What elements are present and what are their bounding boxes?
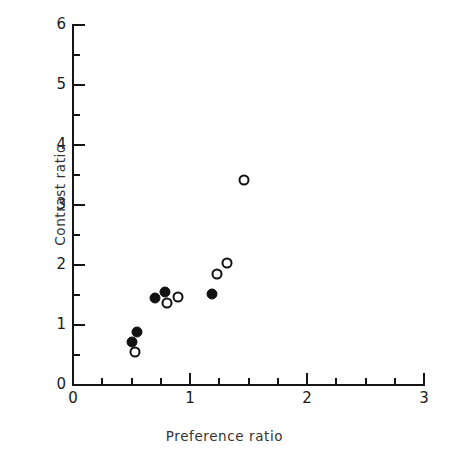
x-tick-label: 3 xyxy=(419,389,429,407)
x-tick-label: 1 xyxy=(185,389,195,407)
data-point-open xyxy=(161,297,172,308)
data-point-filled xyxy=(132,327,143,338)
y-axis-title: Contrast ratio xyxy=(52,144,68,246)
data-point-open xyxy=(211,269,222,280)
data-point-open xyxy=(222,257,233,268)
y-tick-label: 1 xyxy=(26,315,66,333)
scatter-chart-figure: 0123456 0123 Preference ratio Contrast r… xyxy=(0,0,449,458)
y-tick-label: 5 xyxy=(26,75,66,93)
data-point-filled xyxy=(207,288,218,299)
data-point-filled xyxy=(149,293,160,304)
x-axis-title: Preference ratio xyxy=(166,428,283,444)
plot-area xyxy=(73,25,424,385)
data-point-open xyxy=(173,291,184,302)
y-tick-label: 0 xyxy=(26,375,66,393)
x-tick-label: 2 xyxy=(302,389,312,407)
data-point-open xyxy=(130,347,141,358)
y-tick-label: 2 xyxy=(26,255,66,273)
y-tick-label: 6 xyxy=(26,15,66,33)
data-point-filled xyxy=(160,287,171,298)
x-tick-label: 0 xyxy=(68,389,78,407)
data-point-open xyxy=(238,174,249,185)
